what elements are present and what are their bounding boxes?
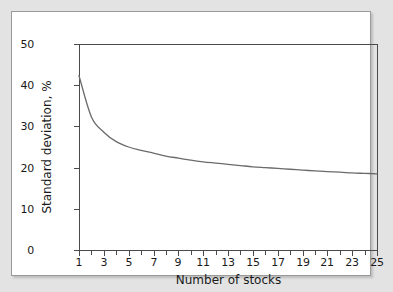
y-tick-label: 20	[20, 163, 34, 174]
x-tick-label: 9	[167, 257, 189, 269]
x-tick-label: 1	[68, 257, 90, 269]
y-tick-label: 40	[20, 80, 34, 91]
x-tick-mark-minor	[265, 251, 266, 255]
x-tick-label: 7	[143, 257, 165, 269]
x-tick-label: 13	[217, 257, 239, 269]
y-tick-label: 0	[27, 245, 34, 256]
x-tick-label: 23	[341, 257, 363, 269]
x-tick-mark-minor	[315, 251, 316, 255]
y-axis-title: Standard deviation, %	[40, 57, 58, 237]
x-tick-mark-minor	[340, 251, 341, 255]
x-tick-mark-minor	[141, 251, 142, 255]
x-tick-mark-minor	[216, 251, 217, 255]
x-tick-label: 3	[93, 257, 115, 269]
x-tick-label: 17	[267, 257, 289, 269]
y-axis-title-wrap: Standard deviation, %	[40, 237, 41, 238]
y-tick-label: 50	[20, 39, 34, 50]
diversification-curve-svg	[79, 44, 377, 250]
x-tick-label: 5	[118, 257, 140, 269]
x-tick-label: 25	[366, 257, 388, 269]
x-tick-mark-minor	[240, 251, 241, 255]
x-tick-label: 15	[242, 257, 264, 269]
x-tick-label: 11	[192, 257, 214, 269]
x-tick-mark-minor	[365, 251, 366, 255]
y-tick-label: 30	[20, 121, 34, 132]
plot-border-right	[377, 44, 378, 251]
x-tick-mark-minor	[91, 251, 92, 255]
x-axis-title: Number of stocks	[79, 273, 378, 287]
x-tick-mark-minor	[116, 251, 117, 255]
series-line-standard-deviation	[79, 76, 377, 174]
x-tick-label: 21	[316, 257, 338, 269]
plot-area	[79, 44, 377, 250]
x-tick-label: 19	[292, 257, 314, 269]
x-tick-mark-minor	[166, 251, 167, 255]
figure-panel: 01020304050 135791113151719212325 Standa…	[11, 11, 371, 276]
figure-outer-frame: 01020304050 135791113151719212325 Standa…	[0, 0, 393, 292]
x-tick-mark-minor	[191, 251, 192, 255]
y-tick-label: 10	[20, 204, 34, 215]
x-tick-mark-minor	[290, 251, 291, 255]
